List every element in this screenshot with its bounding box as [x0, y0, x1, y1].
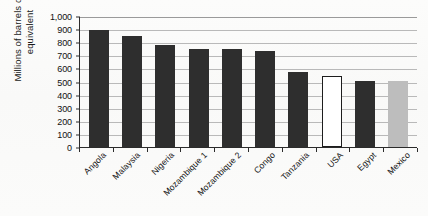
bar-group [283, 17, 314, 147]
x-axis-tick-label: Mexico [385, 150, 412, 177]
x-axis-tick-label: Malaysia [110, 150, 142, 182]
x-axis-tick-label: USA [325, 150, 345, 170]
bar-group [183, 17, 214, 147]
y-axis-tick-label: 200 [57, 117, 72, 127]
x-axis-tick-label: Congo [252, 150, 277, 175]
bar-group [316, 17, 347, 147]
y-axis-tick-label: 0 [67, 143, 72, 153]
bar-group [217, 17, 248, 147]
y-axis-tick-label: 100 [57, 130, 72, 140]
bar-egypt [355, 81, 375, 147]
chart-page: Millions of barrels of oil equivalent 1,… [0, 0, 428, 216]
y-axis-tick-label: 500 [57, 78, 72, 88]
y-axis-tick-label: 1,000 [50, 12, 72, 22]
bar-congo [255, 51, 275, 147]
bar-usa [322, 76, 342, 147]
x-axis-tick-labels: AngolaMalaysiaNigeriaMozambique 1Mozambi… [79, 150, 417, 214]
bar-malaysia [122, 36, 142, 147]
y-axis-tick-label: 600 [57, 64, 72, 74]
y-axis-tick-label: 700 [57, 51, 72, 61]
bar-mozambique-2 [222, 49, 242, 147]
x-axis-tick-label: Nigeria [149, 150, 176, 177]
y-axis-tick-label: 300 [57, 104, 72, 114]
bar-group [83, 17, 114, 147]
x-axis-tick-label: Egypt [355, 150, 378, 173]
plot-area [79, 17, 417, 148]
y-axis-tick-label: 900 [57, 25, 72, 35]
y-axis-title: Millions of barrels of oil equivalent [12, 0, 32, 98]
bar-group [383, 17, 414, 147]
bar-group [250, 17, 281, 147]
bar-group [350, 17, 381, 147]
bar-group [150, 17, 181, 147]
y-axis-tick-label: 400 [57, 91, 72, 101]
x-axis-tick-mark [417, 148, 418, 152]
bar-angola [89, 30, 109, 147]
bar-nigeria [155, 45, 175, 147]
bar-mozambique-1 [189, 49, 209, 147]
x-axis-tick-label: Angola [82, 150, 108, 176]
y-axis-tick-label: 800 [57, 38, 72, 48]
y-axis-tick-labels: 1,0009008007006005004003002001000 [40, 11, 76, 153]
bar-mexico [388, 81, 408, 147]
bar-tanzania [288, 72, 308, 147]
x-axis-tick-label: Tanzania [279, 150, 311, 182]
bar-series [80, 17, 417, 147]
bar-group [117, 17, 148, 147]
